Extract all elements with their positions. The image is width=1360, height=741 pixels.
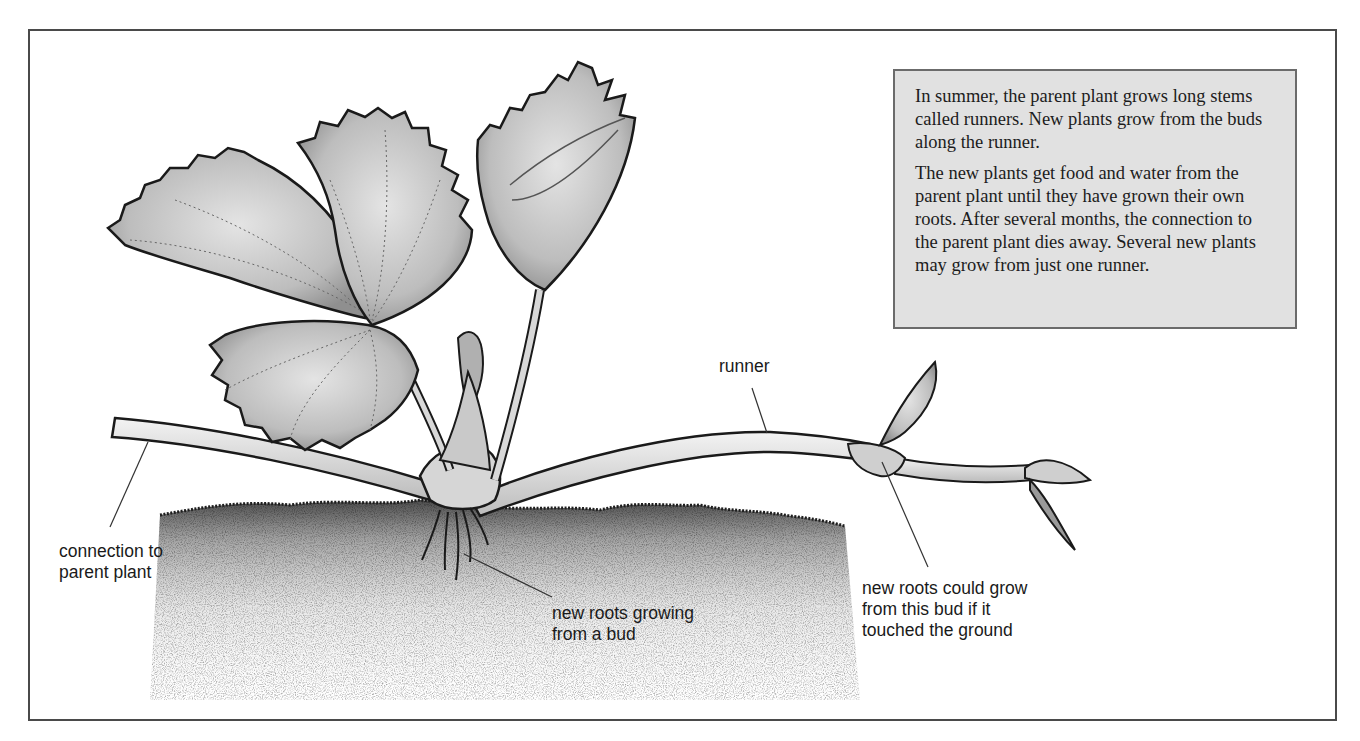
info-text-box: In summer, the parent plant grows long s… xyxy=(893,69,1297,329)
leaf-right-folded xyxy=(477,62,635,290)
label-new-roots-growing: new roots growing from a bud xyxy=(552,603,694,645)
runner-tip-leaf xyxy=(1025,460,1090,483)
info-paragraph-1: In summer, the parent plant grows long s… xyxy=(915,85,1277,154)
sheath xyxy=(440,372,490,470)
runner-stem xyxy=(470,432,880,516)
leaf-bottom xyxy=(210,321,418,450)
runner-tip-bud xyxy=(1030,480,1075,550)
label-new-roots-could-grow: new roots could grow from this bud if it… xyxy=(862,578,1027,641)
label-runner: runner xyxy=(719,356,770,377)
runner-bud-node xyxy=(848,443,905,476)
runner-stem-tip xyxy=(895,458,1032,482)
runner-small-leaf xyxy=(880,362,936,445)
label-connection-to-parent-plant: connection to parent plant xyxy=(59,541,163,583)
info-paragraph-2: The new plants get food and water from t… xyxy=(915,162,1277,277)
soil xyxy=(150,500,860,700)
